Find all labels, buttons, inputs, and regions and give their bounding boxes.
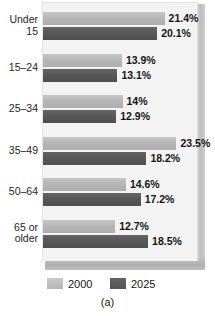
bar-row: 17.2% xyxy=(43,193,185,206)
bar-rows-container: Under 1521.4%20.1%15–2413.9%13.1%25–3414… xyxy=(0,0,215,262)
bar-value-label: 12.7% xyxy=(119,219,149,233)
bar-value-label: 21.4% xyxy=(169,11,199,25)
bar-row: 23.5% xyxy=(43,137,185,150)
bar-value-label: 23.5% xyxy=(180,136,210,150)
bar-2025 xyxy=(43,110,116,123)
legend-swatch-2000 xyxy=(47,278,63,289)
bar-value-label: 18.2% xyxy=(150,151,180,165)
bar-value-label: 12.9% xyxy=(120,109,150,123)
category-label: Under 15 xyxy=(0,14,38,37)
bar-2000 xyxy=(43,178,126,191)
bar-row: 14% xyxy=(43,95,185,108)
bar-2025 xyxy=(43,27,157,40)
bar-value-label: 13.1% xyxy=(121,68,151,82)
bar-2000 xyxy=(43,137,176,150)
bar-2000 xyxy=(43,220,115,233)
bar-value-label: 18.5% xyxy=(152,234,182,248)
legend-label: 2025 xyxy=(131,278,155,290)
bar-row: 13.9% xyxy=(43,54,185,67)
legend-item-2025[interactable]: 2025 xyxy=(110,276,155,291)
bar-2000 xyxy=(43,12,165,25)
bar-row: 12.7% xyxy=(43,220,185,233)
category-label: 65 or older xyxy=(0,222,38,245)
bar-row: 12.9% xyxy=(43,110,185,123)
bar-row: 18.5% xyxy=(43,235,185,248)
bar-row: 18.2% xyxy=(43,152,185,165)
bar-value-label: 17.2% xyxy=(145,192,175,206)
bar-2025 xyxy=(43,193,141,206)
bar-row: 20.1% xyxy=(43,27,185,40)
bar-row: 14.6% xyxy=(43,178,185,191)
category-label: 35–49 xyxy=(0,145,38,157)
bar-row: 13.1% xyxy=(43,69,185,82)
legend-swatch-2025 xyxy=(110,278,126,289)
bar-2025 xyxy=(43,235,148,248)
bar-value-label: 14% xyxy=(127,94,148,108)
bar-2025 xyxy=(43,152,146,165)
bar-row: 21.4% xyxy=(43,12,185,25)
legend-label: 2000 xyxy=(68,278,92,290)
figure-caption: (a) xyxy=(0,296,215,308)
category-label: 50–64 xyxy=(0,186,38,198)
bar-value-label: 13.9% xyxy=(126,53,156,67)
legend-item-2000[interactable]: 2000 xyxy=(47,276,92,291)
category-label: 25–34 xyxy=(0,103,38,115)
bar-2025 xyxy=(43,69,117,82)
bar-value-label: 14.6% xyxy=(130,177,160,191)
figure-bar-chart: Under 1521.4%20.1%15–2413.9%13.1%25–3414… xyxy=(0,0,215,316)
bar-value-label: 20.1% xyxy=(161,26,191,40)
category-label: 15–24 xyxy=(0,62,38,74)
bar-2000 xyxy=(43,95,123,108)
chart-legend: 20002025 xyxy=(0,276,215,292)
bar-2000 xyxy=(43,54,122,67)
